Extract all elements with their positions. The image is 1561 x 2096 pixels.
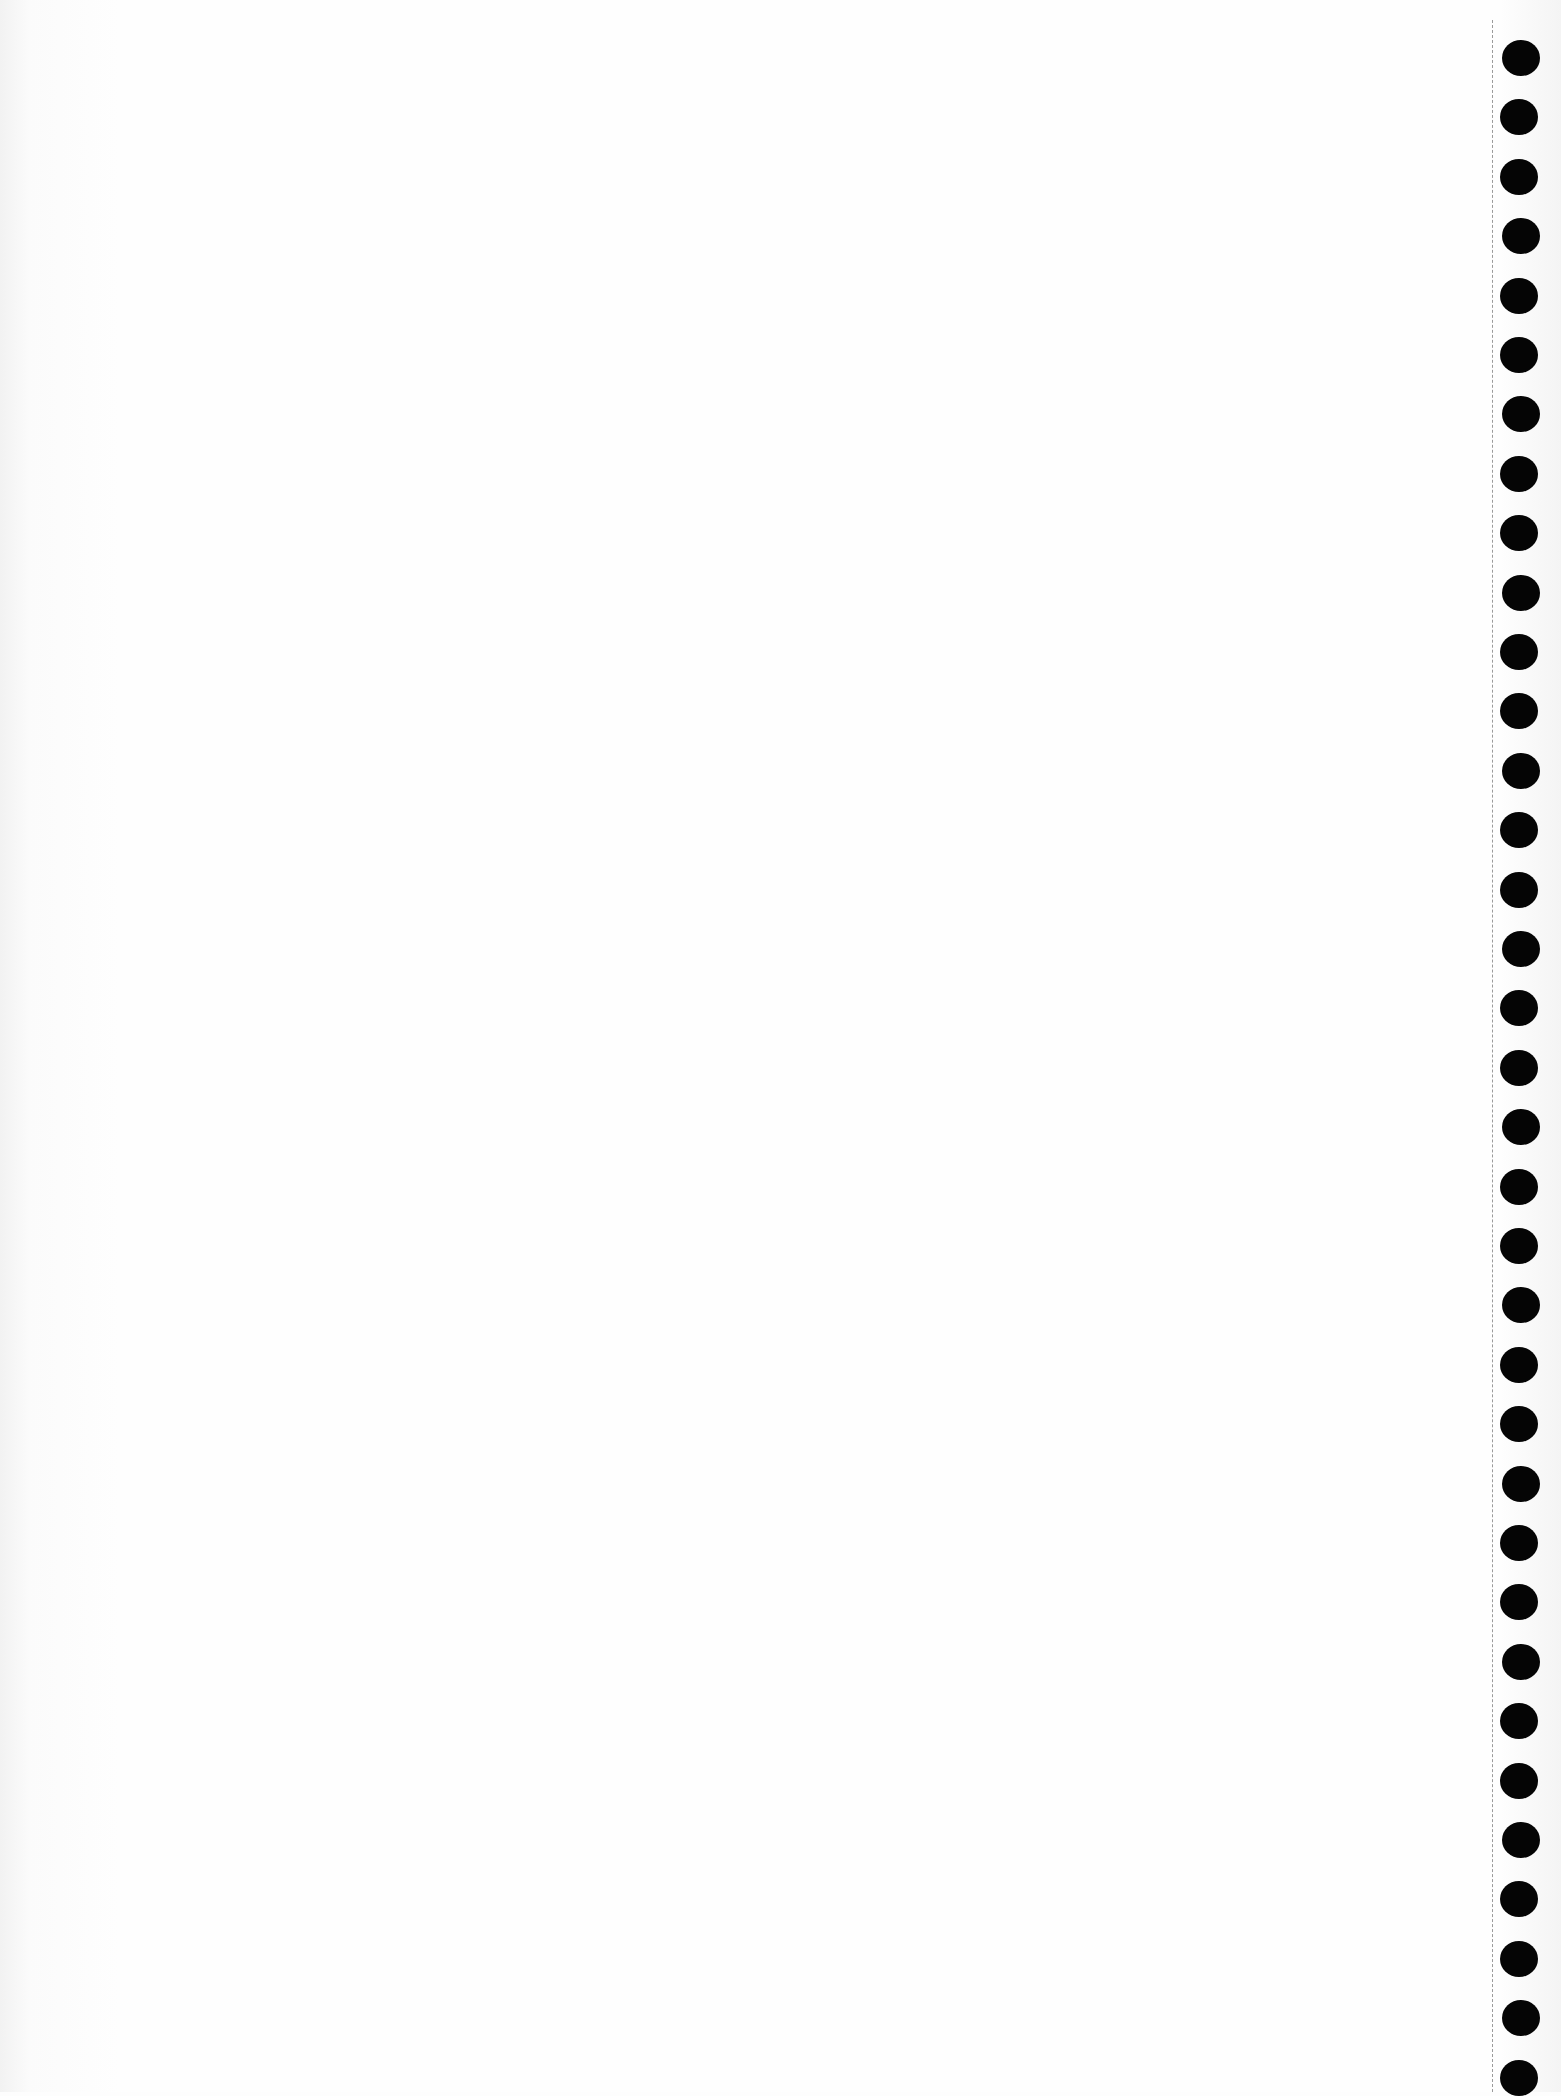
binding-hole: [1500, 456, 1538, 492]
binding-hole: [1500, 1050, 1538, 1086]
binding-hole: [1502, 1287, 1540, 1323]
binding-hole: [1502, 1466, 1540, 1502]
binding-hole: [1502, 1822, 1540, 1858]
binding-hole: [1500, 1703, 1538, 1739]
binding-hole: [1500, 337, 1538, 373]
binding-hole: [1500, 1941, 1538, 1977]
binding-hole: [1500, 1406, 1538, 1442]
binding-hole: [1500, 278, 1538, 314]
binding-hole: [1502, 396, 1540, 432]
binding-hole: [1500, 1169, 1538, 1205]
binding-hole: [1500, 693, 1538, 729]
binding-hole: [1500, 1584, 1538, 1620]
binding-hole: [1500, 1525, 1538, 1561]
binding-hole: [1502, 40, 1540, 76]
binding-hole: [1500, 1347, 1538, 1383]
binding-hole: [1500, 99, 1538, 135]
binding-hole: [1500, 1763, 1538, 1799]
binding-hole: [1502, 2000, 1540, 2036]
binding-hole: [1502, 753, 1540, 789]
binding-hole: [1502, 1109, 1540, 1145]
binding-hole: [1500, 634, 1538, 670]
binding-hole: [1500, 990, 1538, 1026]
binding-hole: [1500, 872, 1538, 908]
binding-hole: [1500, 1881, 1538, 1917]
binding-hole: [1502, 1644, 1540, 1680]
binding-hole: [1502, 575, 1540, 611]
binding-hole: [1500, 159, 1538, 195]
binding-hole: [1502, 218, 1540, 254]
binding-hole: [1500, 1228, 1538, 1264]
binding-hole: [1500, 515, 1538, 551]
binding-hole: [1502, 931, 1540, 967]
binding-hole: [1500, 2060, 1538, 2096]
binding-hole: [1500, 812, 1538, 848]
